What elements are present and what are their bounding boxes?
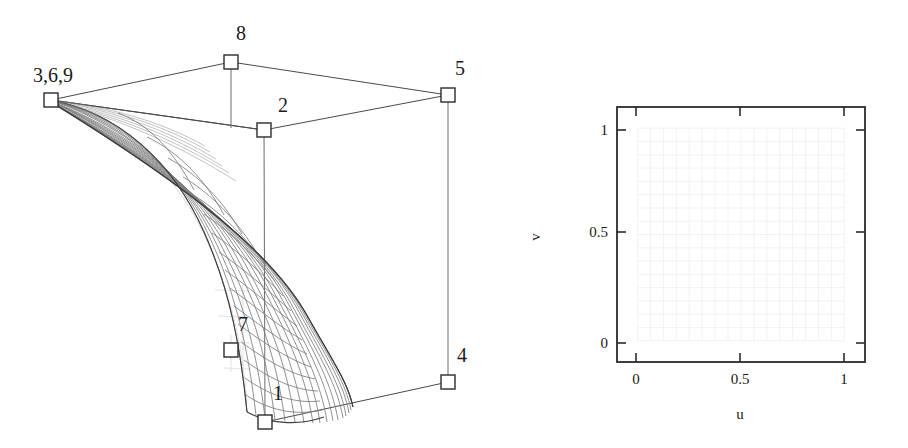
surface-apex-shading	[51, 100, 236, 181]
surface-boundary-edges	[51, 100, 353, 412]
control-point-marker-369[interactable]	[44, 93, 58, 107]
surface-hidden-silhouette	[51, 101, 251, 403]
control-point-label-8: 8	[236, 22, 246, 44]
right-figure-uv-domain: 0 0.5 1 0 0.5 1 u v	[527, 107, 865, 422]
surface-mesh-u-isolines	[51, 100, 353, 423]
control-point-marker-8[interactable]	[224, 55, 238, 69]
uv-parameter-grid	[638, 128, 845, 341]
control-point-marker-1[interactable]	[258, 415, 272, 429]
control-point-labels: 1 2 3,6,9 4 5 7 8	[33, 22, 467, 404]
y-axis-title: v	[527, 233, 543, 241]
x-tick-label-1: 1	[840, 371, 848, 387]
control-point-label-369: 3,6,9	[33, 64, 73, 86]
x-tick-label-0-5: 0.5	[731, 371, 750, 387]
control-point-marker-4[interactable]	[441, 375, 455, 389]
control-point-marker-5[interactable]	[441, 88, 455, 102]
figure-canvas: 1 2 3,6,9 4 5 7 8	[0, 0, 908, 448]
control-point-label-2: 2	[278, 94, 288, 116]
x-axis-tick-labels: 0 0.5 1	[632, 371, 848, 387]
y-axis-tick-labels: 0 0.5 1	[589, 122, 608, 351]
x-tick-label-0: 0	[632, 371, 640, 387]
y-tick-label-1: 1	[601, 122, 609, 138]
left-figure-3d-surface: 1 2 3,6,9 4 5 7 8	[33, 22, 467, 429]
y-tick-label-0: 0	[601, 335, 609, 351]
control-point-marker-7[interactable]	[224, 343, 238, 357]
control-point-label-7: 7	[238, 313, 248, 335]
control-point-label-4: 4	[457, 344, 467, 366]
y-tick-label-0-5: 0.5	[589, 224, 608, 240]
control-point-label-1: 1	[273, 382, 283, 404]
control-point-label-5: 5	[455, 57, 465, 79]
control-point-marker-2[interactable]	[257, 123, 271, 137]
x-axis-title: u	[736, 406, 744, 422]
